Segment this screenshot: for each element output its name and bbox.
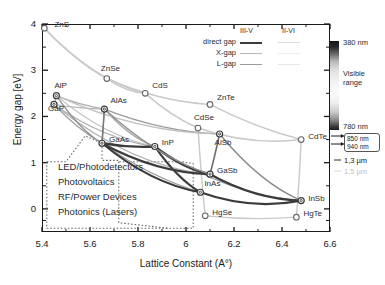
y-axis-label: Energy gap [eV]: [12, 55, 23, 165]
marker-label-940nm: 940 nm: [347, 143, 369, 151]
point-label-alp: AlP: [54, 81, 66, 90]
application-item-rf-power: RF/Power Devices: [58, 189, 208, 204]
legend-label-direct-gap: direct gap: [203, 37, 236, 46]
x-tick-label: 6.6: [315, 238, 345, 249]
application-item-photonics: Photonics (Lasers): [58, 204, 208, 219]
legend-row-x-gap: X-gap: [196, 48, 308, 59]
point-label-znte: ZnTe: [217, 93, 235, 102]
point-label-alsb: AlSb: [215, 138, 232, 147]
legend-swatch-l-iii-v: [240, 64, 262, 65]
y-tick-label: 4: [20, 18, 36, 29]
legend-label-x-gap: X-gap: [216, 48, 236, 57]
colorbar-tick-marks: [331, 134, 344, 171]
point-label-cds: CdS: [152, 81, 168, 90]
y-tick-label: 0: [20, 203, 36, 214]
point-label-alas: AlAs: [110, 96, 126, 105]
colorbar-label-range: range: [343, 78, 362, 87]
x-tick-label: 5.4: [27, 238, 57, 249]
point-label-zns: ZnS: [54, 20, 69, 29]
point-label-gaas: GaAs: [109, 135, 129, 144]
legend-swatch-x-iii-v: [240, 53, 262, 54]
colorbar-label-780nm: 780 nm: [343, 122, 368, 131]
point-label-hgse: HgSe: [212, 208, 232, 217]
x-tick-label: 6.4: [267, 238, 297, 249]
wavelength-colorbar: [330, 41, 339, 130]
x-tick-label: 5.6: [75, 238, 105, 249]
legend-col-ii-vi: II-VI: [282, 27, 295, 34]
legend-col-iii-v: III-V: [240, 27, 253, 34]
legend-row-l-gap: L-gap: [196, 59, 308, 70]
colorbar-label-380nm: 380 nm: [343, 38, 368, 47]
point-label-hgte: HgTe: [303, 209, 322, 218]
legend: III-V II-VI direct gap X-gap L-gap: [196, 27, 308, 70]
point-label-gasb: GaSb: [217, 166, 237, 175]
legend-swatch-l-ii-vi: [278, 64, 300, 65]
x-tick-label: 5.8: [123, 238, 153, 249]
marker-label-1500nm: 1,5 µm: [344, 168, 367, 176]
point-label-insb: InSb: [308, 194, 324, 203]
semiconductor-bandgap-chart: 5.45.65.866.26.46.6 01234 Lattice Consta…: [0, 0, 385, 285]
legend-swatch-direct-iii-v: [240, 42, 262, 44]
application-region-labels: LED/Photodetectors Photovoltaics RF/Powe…: [58, 159, 208, 219]
colorbar-label-visible: Visible: [343, 69, 365, 78]
legend-header: III-V II-VI: [196, 27, 308, 37]
legend-row-direct-gap: direct gap: [196, 37, 308, 48]
marker-label-1300nm: 1,3 µm: [344, 157, 367, 165]
x-tick-label: 6: [171, 238, 201, 249]
point-label-cdte: CdTe: [308, 132, 327, 141]
legend-swatch-x-ii-vi: [278, 53, 300, 54]
application-item-led: LED/Photodetectors: [58, 159, 208, 174]
point-label-gap: GaP: [48, 104, 64, 113]
legend-swatch-direct-ii-vi: [278, 42, 300, 43]
marker-label-850nm: 850 nm: [347, 135, 369, 143]
legend-label-l-gap: L-gap: [217, 59, 236, 68]
x-axis-label: Lattice Constant (A°): [42, 258, 330, 269]
application-item-photovoltaics: Photovoltaics: [58, 174, 208, 189]
point-label-znse: ZnSe: [101, 64, 120, 73]
point-label-cdse: CdSe: [194, 113, 214, 122]
x-tick-label: 6.2: [219, 238, 249, 249]
point-label-inp: InP: [162, 138, 174, 147]
